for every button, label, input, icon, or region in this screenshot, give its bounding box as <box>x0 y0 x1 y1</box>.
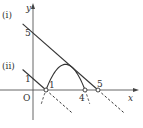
y-tick-label: 5 <box>25 28 31 38</box>
line-i-label: (i) <box>2 10 12 20</box>
open-point <box>83 88 87 92</box>
line-ii-label: (ii) <box>2 61 15 71</box>
line-ii-dashed <box>46 90 72 113</box>
x-tick-label: 4 <box>79 93 85 103</box>
y-axis-arrow-icon <box>31 3 35 9</box>
y-axis-label: y <box>25 3 32 13</box>
origin-label: O <box>23 93 30 103</box>
coordinate-diagram: x y O 1 4 5 1 5 (i) (ii) <box>0 0 143 128</box>
x-tick-label: 1 <box>49 80 55 90</box>
x-axis-arrow-icon <box>133 88 139 92</box>
y-tick-label: 1 <box>25 74 31 84</box>
line-i-dashed <box>98 90 124 113</box>
open-point <box>44 88 48 92</box>
x-tick-label: 5 <box>97 79 103 89</box>
x-axis-label: x <box>128 93 133 103</box>
